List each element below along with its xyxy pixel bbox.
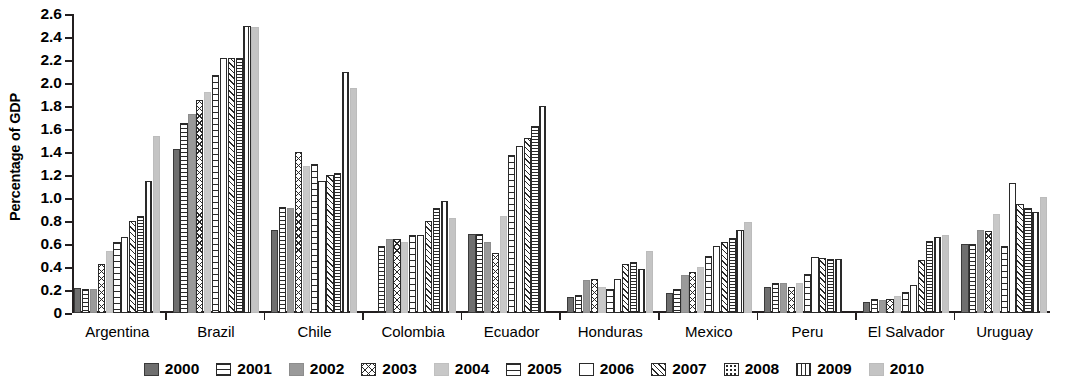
- bar: [303, 166, 310, 313]
- bar: [220, 58, 227, 313]
- y-axis-tick: [65, 244, 72, 246]
- bar: [910, 285, 917, 313]
- legend-item-2002[interactable]: 2002: [289, 360, 344, 378]
- y-axis-tick: [65, 83, 72, 85]
- y-axis-tick-label: 0.2: [40, 281, 62, 299]
- legend-item-2007[interactable]: 2007: [651, 360, 706, 378]
- bar: [780, 283, 787, 313]
- y-axis-tick: [65, 37, 72, 39]
- bar: [961, 244, 968, 313]
- bar: [433, 208, 440, 313]
- bar: [993, 214, 1000, 313]
- bar: [918, 260, 925, 313]
- bar: [638, 269, 645, 313]
- x-axis-label-colombia: Colombia: [370, 320, 457, 342]
- bar: [204, 92, 211, 313]
- bar: [492, 253, 499, 313]
- x-axis-label-argentina: Argentina: [74, 320, 161, 342]
- x-axis-label-mexico: Mexico: [666, 320, 753, 342]
- y-axis-tick-label: 0.6: [40, 235, 62, 253]
- legend-label: 2008: [745, 360, 779, 378]
- bar: [934, 237, 941, 313]
- bar: [409, 235, 416, 313]
- bar: [137, 216, 144, 313]
- bar: [531, 126, 538, 313]
- bar: [713, 246, 720, 313]
- legend-item-2008[interactable]: 2008: [724, 360, 779, 378]
- y-axis-tick: [65, 267, 72, 269]
- bar: [871, 299, 878, 313]
- legend-item-2003[interactable]: 2003: [361, 360, 416, 378]
- y-axis-tick-label: 1.4: [40, 143, 62, 161]
- bar: [98, 264, 105, 313]
- x-axis-group-tick: [362, 313, 364, 320]
- bar: [295, 152, 302, 313]
- legend-item-2005[interactable]: 2005: [506, 360, 561, 378]
- bar: [386, 239, 393, 313]
- x-axis-labels: ArgentinaBrazilChileColombiaEcuadorHondu…: [74, 320, 1052, 342]
- legend-swatch-icon: [651, 363, 666, 376]
- y-axis-tick-label: 1.2: [40, 166, 62, 184]
- bar: [508, 155, 515, 313]
- bar: [567, 297, 574, 313]
- x-axis-label-ecuador: Ecuador: [468, 320, 555, 342]
- bar-group: [173, 14, 260, 313]
- y-axis-tick-label: 2.0: [40, 74, 62, 92]
- y-axis-tick-label: 1.8: [40, 97, 62, 115]
- bar: [598, 287, 605, 313]
- y-axis-tick-label: 0.8: [40, 212, 62, 230]
- legend-item-2000[interactable]: 2000: [144, 360, 199, 378]
- bar: [113, 242, 120, 313]
- bar: [788, 287, 795, 313]
- bar: [902, 292, 909, 313]
- y-axis-tick-label: 2.2: [40, 51, 62, 69]
- bar: [894, 296, 901, 313]
- y-axis-tick: [65, 221, 72, 223]
- bar: [311, 164, 318, 314]
- bar: [251, 27, 258, 313]
- bar-group: [370, 14, 457, 313]
- bar: [153, 136, 160, 313]
- legend-label: 2002: [310, 360, 344, 378]
- legend-item-2006[interactable]: 2006: [579, 360, 634, 378]
- y-axis-tick-label: 1.6: [40, 120, 62, 138]
- bar: [476, 234, 483, 313]
- bar: [1016, 204, 1023, 313]
- bar: [271, 230, 278, 313]
- bar: [449, 218, 456, 313]
- legend-item-2010[interactable]: 2010: [869, 360, 924, 378]
- legend-swatch-icon: [289, 363, 304, 376]
- legend-label: 2007: [672, 360, 706, 378]
- legend-swatch-icon: [724, 363, 739, 376]
- legend-item-2009[interactable]: 2009: [796, 360, 851, 378]
- legend-swatch-icon: [869, 363, 884, 376]
- x-axis-group-tick: [855, 313, 857, 320]
- x-axis-label-uruguay: Uruguay: [961, 320, 1048, 342]
- bar: [350, 88, 357, 313]
- bar: [673, 289, 680, 313]
- legend-swatch-icon: [144, 363, 159, 376]
- legend-item-2004[interactable]: 2004: [434, 360, 489, 378]
- y-axis-title-text: Percentage of GDP: [7, 93, 23, 221]
- bar: [243, 26, 250, 314]
- x-axis-group-tick: [559, 313, 561, 320]
- bar: [326, 175, 333, 313]
- y-axis-tick-label: 2.4: [40, 28, 62, 46]
- bar-group: [764, 14, 851, 313]
- legend-label: 2009: [817, 360, 851, 378]
- legend-item-2001[interactable]: 2001: [216, 360, 271, 378]
- bar: [879, 300, 886, 313]
- bar: [606, 289, 613, 313]
- bar: [591, 279, 598, 314]
- bar: [129, 221, 136, 313]
- y-axis-tick: [65, 14, 72, 16]
- bar: [811, 257, 818, 313]
- bar: [1001, 246, 1008, 313]
- bar: [539, 106, 546, 313]
- bar: [736, 230, 743, 313]
- bar: [145, 181, 152, 313]
- bar: [1032, 212, 1039, 313]
- x-axis-group-tick: [461, 313, 463, 320]
- bar: [796, 283, 803, 313]
- bar: [524, 138, 531, 313]
